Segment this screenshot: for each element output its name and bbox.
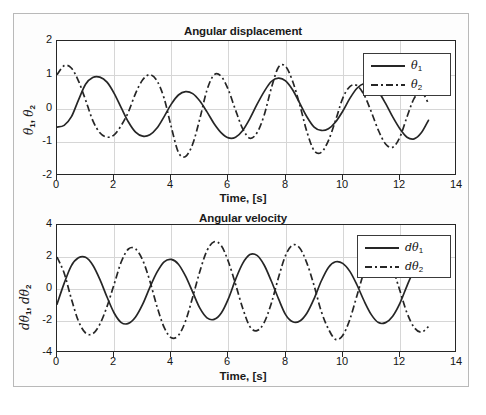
y-axis-label-sep: , [22, 117, 36, 124]
legend-label-theta1-sub: 1 [418, 64, 422, 73]
x-tick-label: 4 [150, 178, 190, 190]
legend-swatch-solid [364, 242, 400, 254]
x-tick-label: 2 [93, 355, 133, 367]
legend-label-dtheta1: dθ1 [405, 241, 423, 255]
y-tick-label: 2 [18, 33, 52, 45]
legend-label-dtheta1-base: dθ [405, 241, 419, 254]
y-tick-label: -2 [18, 313, 52, 325]
y-tick-label: 4 [18, 217, 52, 229]
legend-swatch-dashdot [364, 261, 400, 273]
x-tick-label: 6 [207, 355, 247, 367]
legend-label-dtheta1-sub: 1 [419, 246, 423, 255]
y-tick-label: 0 [18, 101, 52, 113]
x-tick-label: 12 [379, 355, 419, 367]
legend-swatch-solid [370, 60, 406, 72]
legend-label-dtheta2-base: dθ [405, 260, 419, 273]
y-tick-label: -1 [18, 134, 52, 146]
x-tick-label: 0 [36, 355, 76, 367]
subplot-angular-displacement: Angular displacement θ1, θ2 2 1 0 -1 -2 [0, 0, 486, 205]
legend-item-theta1[interactable]: θ1 [364, 57, 450, 75]
x-tick-label: 6 [207, 178, 247, 190]
legend-item-dtheta1[interactable]: dθ1 [358, 239, 450, 257]
legend-label-theta2-sub: 2 [418, 83, 422, 92]
x-tick-label: 14 [436, 355, 476, 367]
x-tick-label: 0 [36, 178, 76, 190]
legend-label-dtheta2: dθ2 [405, 260, 423, 274]
x-tick-label: 8 [265, 355, 305, 367]
legend-displacement[interactable]: θ1 θ2 [363, 53, 451, 96]
chart-title-velocity: Angular velocity [0, 212, 486, 224]
y-tick-label: 1 [18, 67, 52, 79]
x-axis-label-displacement: Time, [s] [0, 192, 486, 204]
legend-label-theta1: θ1 [411, 59, 422, 73]
legend-swatch-dashdot [370, 79, 406, 91]
x-tick-label: 14 [436, 178, 476, 190]
legend-label-theta1-base: θ [411, 59, 418, 72]
x-tick-label: 10 [322, 178, 362, 190]
y-tick-label: 0 [18, 281, 52, 293]
legend-label-theta2-base: θ [411, 78, 418, 91]
subplot-angular-velocity: Angular velocity dθ1, dθ2 4 2 0 -2 -4 [0, 205, 486, 415]
y-axis-label-theta1-sub: 1 [28, 123, 37, 127]
x-axis-label-velocity: Time, [s] [0, 370, 486, 382]
figure-canvas: Angular displacement θ1, θ2 2 1 0 -1 -2 [0, 0, 486, 415]
legend-item-dtheta2[interactable]: dθ2 [358, 258, 450, 276]
legend-item-theta2[interactable]: θ2 [364, 76, 450, 94]
y-tick-label: 2 [18, 249, 52, 261]
x-tick-label: 8 [265, 178, 305, 190]
y-axis-label-sep-2: , [18, 304, 32, 311]
legend-label-dtheta2-sub: 2 [419, 265, 423, 274]
chart-title-displacement: Angular displacement [0, 25, 486, 37]
x-tick-label: 2 [93, 178, 133, 190]
x-tick-label: 10 [322, 355, 362, 367]
x-tick-label: 4 [150, 355, 190, 367]
legend-label-theta2: θ2 [411, 78, 422, 92]
legend-velocity[interactable]: dθ1 dθ2 [357, 235, 451, 278]
x-tick-label: 12 [379, 178, 419, 190]
